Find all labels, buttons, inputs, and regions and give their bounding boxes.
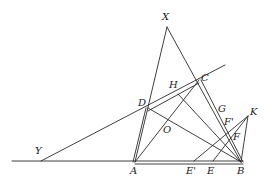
label-F-prime: F': [224, 117, 234, 127]
label-X: X: [162, 12, 169, 22]
label-D: D: [138, 98, 146, 108]
label-K: K: [250, 107, 257, 117]
line-YC-ray: [41, 65, 225, 161]
line-KB: [241, 116, 248, 162]
label-F: F: [233, 132, 240, 142]
label-A: A: [130, 166, 137, 176]
label-G: G: [218, 104, 226, 114]
diagram-lines: [0, 0, 271, 186]
label-E: E: [207, 166, 214, 176]
label-C: C: [201, 73, 209, 83]
label-B: B: [237, 166, 244, 176]
geometry-diagram: X C H D G K F' O F Y A E' E B: [0, 0, 271, 186]
label-Y: Y: [35, 146, 42, 156]
line-DA-double: [133, 108, 146, 162]
label-H: H: [169, 80, 178, 90]
label-O: O: [163, 125, 171, 135]
label-E-prime: E': [186, 166, 196, 176]
